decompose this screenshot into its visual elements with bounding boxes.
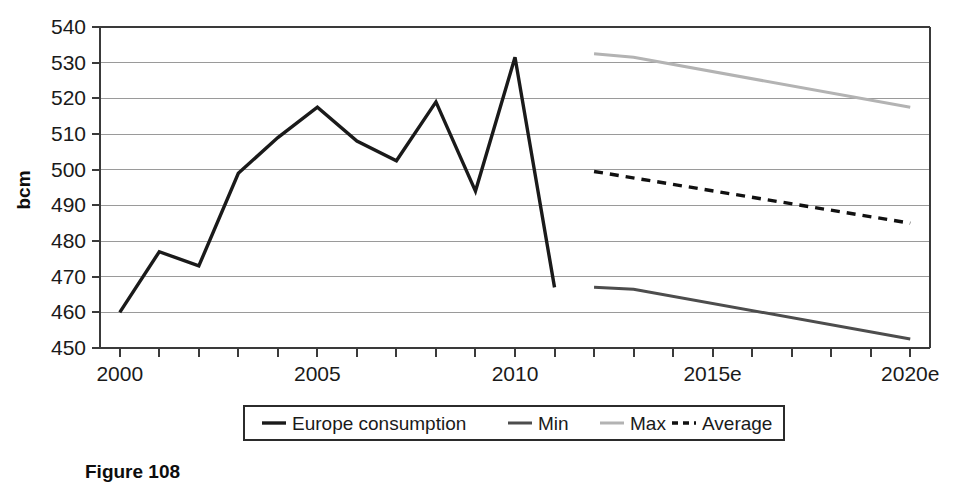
series-line-max (594, 54, 910, 108)
series-line-europe-consumption (120, 57, 555, 312)
y-tick-label: 480 (51, 229, 86, 252)
y-tick-label: 460 (51, 300, 86, 323)
series-lines-group (120, 54, 910, 339)
chart-legend: Europe consumptionMinMaxAverage (244, 406, 784, 440)
x-tick-labels-group: 2000200520102015e2020e (96, 362, 939, 385)
y-tick-label: 500 (51, 158, 86, 181)
y-tick-label: 530 (51, 51, 86, 74)
figure-caption: Figure 108 (85, 461, 180, 482)
series-line-min (594, 287, 910, 339)
legend-label-average: Average (702, 413, 772, 434)
legend-label-europe-consumption: Europe consumption (292, 413, 466, 434)
x-tick-label: 2000 (96, 362, 143, 385)
series-line-average (594, 171, 910, 223)
y-tick-label: 540 (51, 15, 86, 38)
y-tick-label: 470 (51, 265, 86, 288)
gridlines-group (100, 63, 930, 313)
y-tick-label: 450 (51, 336, 86, 359)
figure-container: 450460470480490500510520530540 200020052… (0, 0, 954, 495)
y-tick-label: 520 (51, 86, 86, 109)
legend-label-max: Max (630, 413, 666, 434)
x-tick-label: 2010 (492, 362, 539, 385)
y-axis-title: bcm (13, 170, 34, 209)
line-chart: 450460470480490500510520530540 200020052… (0, 0, 954, 495)
y-tick-label: 510 (51, 122, 86, 145)
y-tick-labels-group: 450460470480490500510520530540 (51, 15, 86, 359)
x-tick-label: 2015e (683, 362, 741, 385)
x-tick-marks-group (120, 348, 910, 357)
x-tick-label: 2020e (881, 362, 939, 385)
legend-label-min: Min (538, 413, 569, 434)
y-tick-label: 490 (51, 193, 86, 216)
x-tick-label: 2005 (294, 362, 341, 385)
